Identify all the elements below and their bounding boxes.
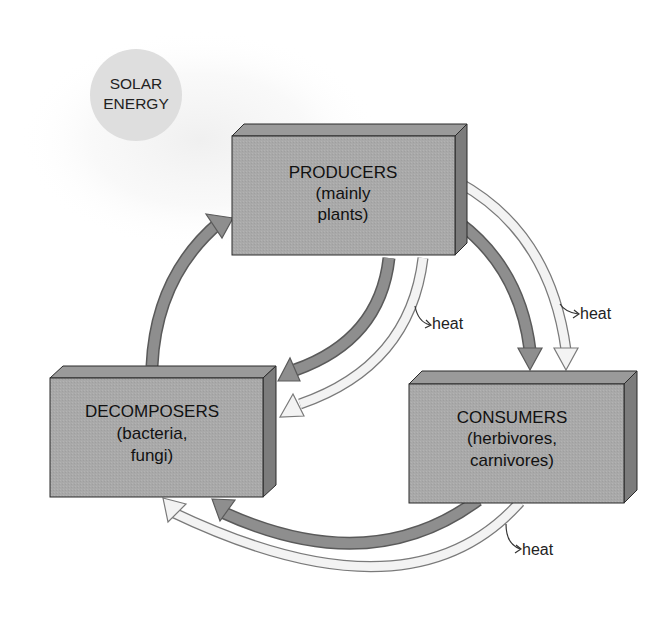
node-decomposers: DECOMPOSERS (bacteria, fungi) <box>50 366 276 497</box>
arrow-consumers-to-decomposers-nutrient <box>212 499 478 543</box>
producers-subtitle-line2: plants) <box>317 205 368 224</box>
sun-label-line1: SOLAR <box>110 75 163 92</box>
heat-label-producers-consumers: heat <box>580 305 612 322</box>
producers-title: PRODUCERS <box>289 163 398 182</box>
decomposers-subtitle-line1: (bacteria, <box>117 424 188 443</box>
box-top <box>232 124 467 136</box>
heat-label-consumers-decomposers: heat <box>522 541 554 558</box>
box-side <box>455 124 467 255</box>
node-consumers: CONSUMERS (herbivores, carnivores) <box>409 371 637 503</box>
node-producers: PRODUCERS (mainly plants) <box>232 124 467 255</box>
consumers-title: CONSUMERS <box>457 408 568 427</box>
decomposers-title: DECOMPOSERS <box>85 402 219 421</box>
box-top <box>409 371 637 384</box>
ecosystem-cycle-diagram: SOLAR ENERGY heat heat <box>0 0 668 620</box>
decomposers-subtitle-line2: fungi) <box>131 446 174 465</box>
consumers-subtitle-line2: carnivores) <box>470 451 554 470</box>
box-side <box>263 366 276 497</box>
box-top <box>50 366 276 378</box>
heat-label-producers-decomposers: heat <box>432 315 464 332</box>
sun-label-line2: ENERGY <box>103 95 168 112</box>
consumers-subtitle-line1: (herbivores, <box>467 429 557 448</box>
heat-curl-icon <box>506 524 520 549</box>
producers-subtitle-line1: (mainly <box>316 184 371 203</box>
box-side <box>624 371 637 503</box>
